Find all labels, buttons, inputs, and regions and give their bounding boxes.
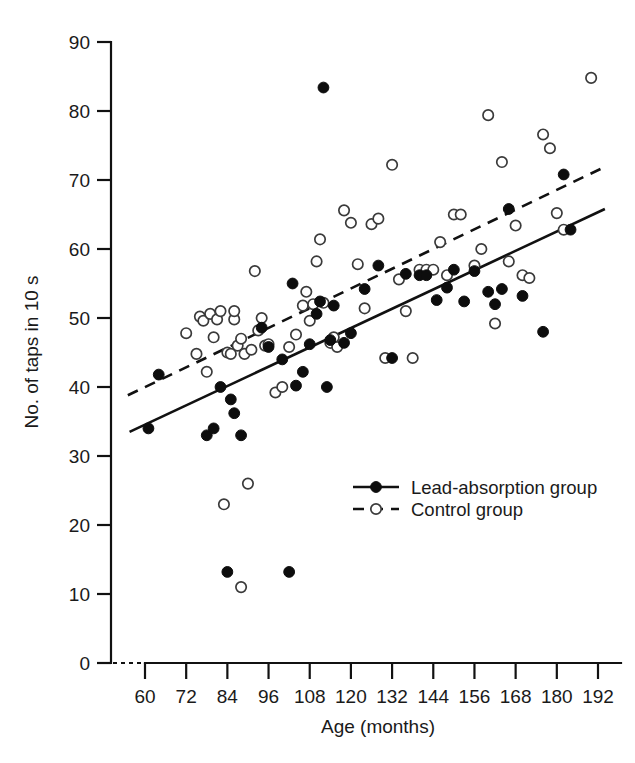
lead-data-point	[304, 339, 315, 350]
legend-item-lead-absorption[interactable]: Lead-absorption group	[353, 477, 597, 498]
legend-open-circle-icon	[371, 504, 381, 514]
lead-data-point	[311, 308, 322, 319]
lead-data-point	[153, 369, 164, 380]
x-tick-label: 180	[541, 686, 573, 707]
plot-canvas: 0102030405060708090 No. of taps in 10 s …	[0, 0, 635, 763]
control-data-point	[504, 256, 514, 266]
lead-data-point	[284, 567, 295, 578]
lead-data-point	[346, 328, 357, 339]
lead-data-point	[277, 354, 288, 365]
lead-data-point	[287, 278, 298, 289]
control-data-point	[483, 110, 493, 120]
control-data-point	[339, 205, 349, 215]
lead-data-point	[263, 342, 274, 353]
lead-data-point	[318, 82, 329, 93]
control-data-point	[476, 244, 486, 254]
lead-data-point	[325, 335, 336, 346]
lead-data-point	[517, 291, 528, 302]
y-tick-label: 40	[69, 377, 90, 398]
control-data-point	[191, 349, 201, 359]
control-data-point	[373, 213, 383, 223]
lead-data-point	[291, 380, 302, 391]
y-tick-marks	[97, 42, 111, 663]
control-data-point	[215, 306, 225, 316]
x-axis: 60728496108120132144156168180192 Age (mo…	[113, 663, 621, 737]
lead-data-point	[215, 382, 226, 393]
x-tick-label: 96	[258, 686, 279, 707]
control-data-point	[456, 209, 466, 219]
y-tick-label: 70	[69, 170, 90, 191]
control-data-point	[387, 160, 397, 170]
lead-data-point	[448, 264, 459, 275]
x-tick-label: 72	[176, 686, 197, 707]
y-tick-label: 30	[69, 446, 90, 467]
lead-data-point	[431, 295, 442, 306]
lead-data-point	[421, 270, 432, 281]
control-data-point	[236, 582, 246, 592]
x-tick-marks	[145, 663, 598, 679]
control-data-point	[552, 208, 562, 218]
x-tick-label: 108	[294, 686, 326, 707]
control-data-point	[229, 306, 239, 316]
legend-label-control: Control group	[411, 499, 523, 520]
control-data-point	[497, 157, 507, 167]
legend-item-control[interactable]: Control group	[353, 499, 523, 520]
y-tick-label: 90	[69, 32, 90, 53]
legend-label-lead-absorption: Lead-absorption group	[411, 477, 597, 498]
lead-data-point	[483, 286, 494, 297]
x-tick-label: 132	[376, 686, 408, 707]
lead-data-point	[222, 567, 233, 578]
lead-data-point	[229, 408, 240, 419]
lead-data-point	[497, 284, 508, 295]
x-tick-label: 192	[582, 686, 614, 707]
x-tick-label: 144	[417, 686, 449, 707]
control-data-point	[510, 220, 520, 230]
control-data-point	[359, 303, 369, 313]
y-tick-label: 80	[69, 101, 90, 122]
control-group-points	[181, 73, 596, 593]
x-tick-label: 120	[335, 686, 367, 707]
control-data-point	[353, 259, 363, 269]
control-data-point	[236, 334, 246, 344]
x-tick-label: 168	[500, 686, 532, 707]
control-data-point	[291, 329, 301, 339]
control-data-point	[407, 353, 417, 363]
lead-data-point	[328, 300, 339, 311]
y-tick-label: 60	[69, 239, 90, 260]
control-data-point	[250, 266, 260, 276]
lead-data-point	[565, 224, 576, 235]
lead-data-point	[538, 326, 549, 337]
x-tick-label: 84	[217, 686, 239, 707]
x-axis-title: Age (months)	[321, 716, 435, 737]
y-tick-label: 20	[69, 515, 90, 536]
control-data-point	[315, 234, 325, 244]
control-data-point	[202, 367, 212, 377]
lead-data-point	[387, 353, 398, 364]
lead-data-point	[459, 296, 470, 307]
lead-data-point	[442, 282, 453, 293]
control-data-point	[524, 273, 534, 283]
lead-data-point	[339, 337, 350, 348]
lead-data-point	[143, 423, 154, 434]
x-tick-label: 60	[134, 686, 155, 707]
lead-data-point	[225, 394, 236, 405]
y-axis: 0102030405060708090 No. of taps in 10 s	[21, 32, 111, 674]
control-data-point	[346, 218, 356, 228]
control-data-point	[277, 382, 287, 392]
legend-filled-circle-icon	[371, 482, 382, 493]
control-data-point	[311, 256, 321, 266]
y-tick-label: 0	[79, 653, 90, 674]
lead-data-point	[321, 382, 332, 393]
control-data-point	[246, 345, 256, 355]
lead-data-point	[208, 423, 219, 434]
lead-data-point	[400, 268, 411, 279]
control-data-point	[490, 318, 500, 328]
control-data-point	[284, 342, 294, 352]
lead-data-point	[373, 260, 384, 271]
lead-data-point	[469, 266, 480, 277]
control-data-point	[586, 73, 596, 83]
control-data-point	[401, 306, 411, 316]
control-data-point	[219, 499, 229, 509]
y-axis-title: No. of taps in 10 s	[21, 275, 42, 428]
lead-data-point	[256, 322, 267, 333]
